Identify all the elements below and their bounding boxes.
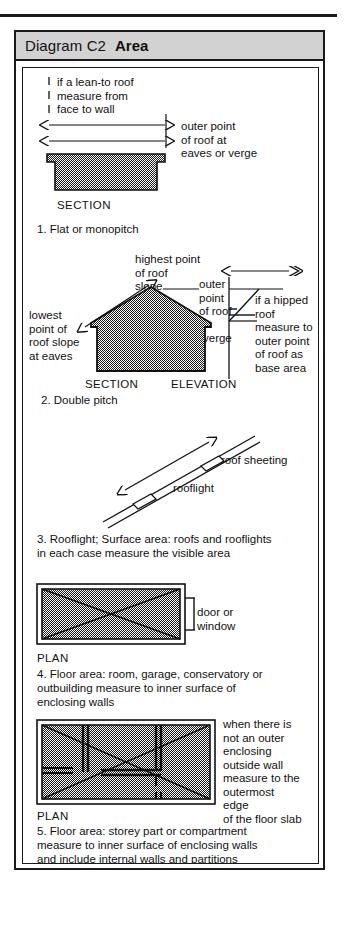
- flat-roof-drawing: SECTION: [23, 68, 319, 223]
- storey-plan-drawing: [23, 718, 319, 833]
- caption-5: 5. Floor area: storey part or compartmen…: [37, 825, 258, 864]
- diagram-id: Diagram C2: [25, 37, 106, 54]
- caption-1: 1. Flat or monopitch: [37, 223, 139, 237]
- caption-4: 4. Floor area: room, garage, conservator…: [37, 668, 263, 709]
- page-title: Area: [115, 37, 148, 54]
- section-floor-area-room: door or window PLAN: [23, 576, 318, 681]
- svg-text:SECTION: SECTION: [85, 378, 138, 390]
- figure-header: Diagram C2 Area: [16, 32, 323, 61]
- svg-text:ELEVATION: ELEVATION: [171, 378, 237, 390]
- double-pitch-drawing: SECTION ELEVATION: [23, 253, 319, 408]
- caption-3: 3. Rooflight; Surface area: roofs and ro…: [37, 533, 272, 561]
- section-flat-monopitch: if a lean-to roof measure from face to w…: [23, 68, 318, 223]
- figure-body: if a lean-to roof measure from face to w…: [22, 67, 319, 864]
- rooflight-drawing: [23, 420, 319, 530]
- section-rooflight: roof sheeting rooflight: [23, 420, 318, 530]
- top-rule: [0, 14, 337, 17]
- figure-box: Diagram C2 Area if a lean-to roof measur…: [14, 30, 325, 870]
- section-floor-area-storey: when there is not an outer enclosing out…: [23, 718, 318, 833]
- diagram-page: Diagram C2 Area if a lean-to roof measur…: [0, 0, 354, 928]
- section-double-pitch: highest point of roof slope lowest point…: [23, 253, 318, 408]
- room-plan-drawing: [23, 576, 319, 681]
- caption-2: 2. Double pitch: [41, 394, 118, 408]
- svg-text:SECTION: SECTION: [57, 199, 111, 211]
